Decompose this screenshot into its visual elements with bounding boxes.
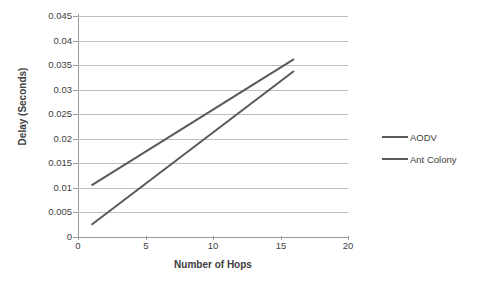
plot-area (78, 16, 348, 237)
legend-item[interactable]: AODV (382, 126, 478, 148)
x-axis-tick-label: 5 (126, 240, 166, 251)
legend-label: AODV (410, 132, 437, 143)
series-line (92, 71, 295, 225)
y-axis-tick-label: 0.01 (6, 183, 72, 193)
legend-item[interactable]: Ant Colony (382, 148, 478, 170)
legend-line-swatch (382, 158, 408, 160)
series-lines (78, 16, 348, 237)
y-axis-title: Delay (Seconds) (17, 47, 28, 167)
x-axis-tick-mark (348, 236, 349, 240)
y-axis-tick-label: 0.045 (6, 11, 72, 21)
x-axis-tick-mark (213, 236, 214, 240)
x-axis-tick-label: 0 (58, 240, 98, 251)
x-axis-tick-group: 05101520 (78, 240, 348, 256)
x-axis-tick-mark (146, 236, 147, 240)
y-axis-tick-group: 00.0050.010.0150.020.0250.030.0350.040.0… (0, 16, 72, 237)
legend-label: Ant Colony (410, 154, 456, 165)
legend-line-swatch (382, 136, 408, 138)
y-axis-tick-label: 0.005 (6, 207, 72, 217)
chart-legend: AODVAnt Colony (382, 126, 478, 170)
x-axis-tick-mark (281, 236, 282, 240)
x-axis-tick-label: 10 (193, 240, 233, 251)
x-axis-tick-label: 20 (328, 240, 368, 251)
y-axis-tick-label: 0.04 (6, 36, 72, 46)
x-axis-tick-label: 15 (261, 240, 301, 251)
x-axis-tick-mark (78, 236, 79, 240)
line-chart: 00.0050.010.0150.020.0250.030.0350.040.0… (0, 0, 480, 293)
x-axis-title: Number of Hops (78, 259, 348, 270)
series-line (92, 59, 295, 185)
